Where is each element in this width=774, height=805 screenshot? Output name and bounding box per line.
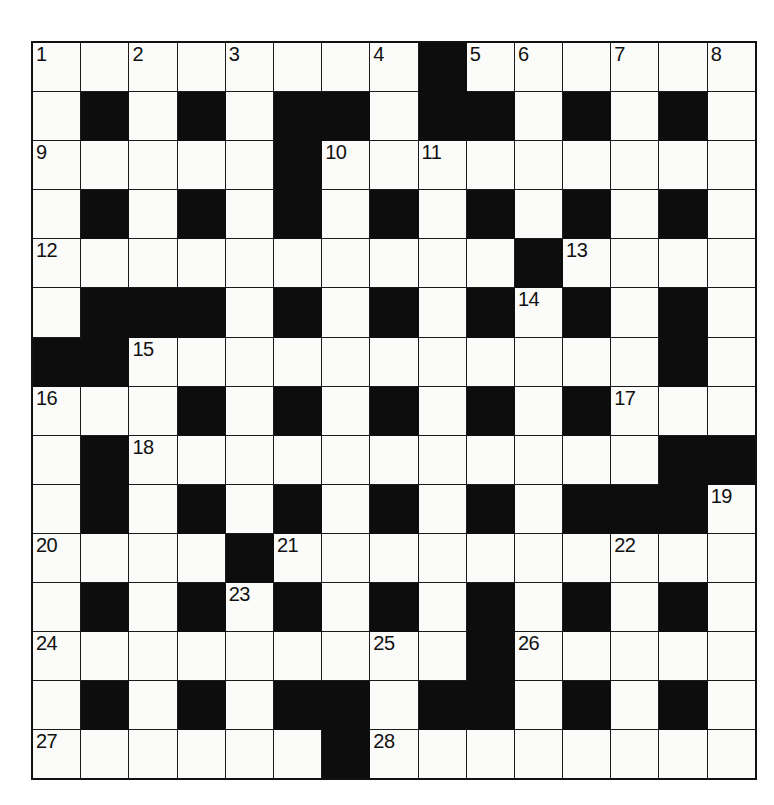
crossword-cell[interactable] xyxy=(514,92,562,141)
crossword-cell[interactable] xyxy=(177,435,225,484)
crossword-cell[interactable] xyxy=(514,190,562,239)
crossword-cell[interactable] xyxy=(707,141,756,190)
crossword-cell[interactable] xyxy=(418,484,466,533)
crossword-cell[interactable] xyxy=(370,239,418,288)
crossword-cell[interactable] xyxy=(322,239,370,288)
crossword-cell[interactable] xyxy=(273,239,321,288)
crossword-cell[interactable]: 28 xyxy=(370,730,418,780)
crossword-cell[interactable] xyxy=(370,141,418,190)
crossword-cell[interactable] xyxy=(659,42,707,92)
crossword-cell[interactable] xyxy=(32,435,81,484)
crossword-cell[interactable] xyxy=(514,533,562,582)
crossword-cell[interactable] xyxy=(370,337,418,386)
crossword-cell[interactable]: 13 xyxy=(563,239,611,288)
crossword-cell[interactable] xyxy=(322,190,370,239)
crossword-cell[interactable] xyxy=(177,42,225,92)
crossword-cell[interactable] xyxy=(659,141,707,190)
crossword-cell[interactable] xyxy=(32,190,81,239)
crossword-cell[interactable] xyxy=(659,239,707,288)
crossword-cell[interactable] xyxy=(418,337,466,386)
crossword-cell[interactable] xyxy=(322,386,370,435)
crossword-cell[interactable]: 27 xyxy=(32,730,81,780)
crossword-cell[interactable] xyxy=(418,632,466,681)
crossword-cell[interactable] xyxy=(225,190,273,239)
crossword-cell[interactable] xyxy=(514,435,562,484)
crossword-cell[interactable]: 9 xyxy=(32,141,81,190)
crossword-cell[interactable] xyxy=(177,533,225,582)
crossword-cell[interactable] xyxy=(466,337,514,386)
crossword-cell[interactable] xyxy=(611,632,659,681)
crossword-cell[interactable] xyxy=(81,533,129,582)
crossword-cell[interactable] xyxy=(129,141,177,190)
crossword-cell[interactable]: 10 xyxy=(322,141,370,190)
crossword-cell[interactable]: 26 xyxy=(514,632,562,681)
crossword-cell[interactable] xyxy=(659,533,707,582)
crossword-cell[interactable] xyxy=(81,632,129,681)
crossword-cell[interactable] xyxy=(611,435,659,484)
crossword-cell[interactable] xyxy=(707,583,756,632)
crossword-cell[interactable] xyxy=(611,288,659,337)
crossword-cell[interactable] xyxy=(707,337,756,386)
crossword-cell[interactable]: 8 xyxy=(707,42,756,92)
crossword-cell[interactable] xyxy=(418,533,466,582)
crossword-cell[interactable]: 24 xyxy=(32,632,81,681)
crossword-cell[interactable] xyxy=(707,533,756,582)
crossword-cell[interactable] xyxy=(225,141,273,190)
crossword-cell[interactable]: 16 xyxy=(32,386,81,435)
crossword-cell[interactable] xyxy=(611,141,659,190)
crossword-cell[interactable] xyxy=(32,583,81,632)
crossword-cell[interactable] xyxy=(418,190,466,239)
crossword-cell[interactable] xyxy=(81,386,129,435)
crossword-cell[interactable] xyxy=(225,92,273,141)
crossword-cell[interactable]: 3 xyxy=(225,42,273,92)
crossword-cell[interactable] xyxy=(418,239,466,288)
crossword-cell[interactable] xyxy=(514,730,562,780)
crossword-cell[interactable] xyxy=(563,337,611,386)
crossword-cell[interactable] xyxy=(273,730,321,780)
crossword-cell[interactable] xyxy=(418,435,466,484)
crossword-cell[interactable] xyxy=(466,533,514,582)
crossword-cell[interactable] xyxy=(32,484,81,533)
crossword-cell[interactable] xyxy=(659,632,707,681)
crossword-cell[interactable] xyxy=(177,337,225,386)
crossword-cell[interactable] xyxy=(32,288,81,337)
crossword-cell[interactable] xyxy=(129,239,177,288)
crossword-cell[interactable] xyxy=(225,288,273,337)
crossword-cell[interactable] xyxy=(322,337,370,386)
crossword-cell[interactable] xyxy=(418,730,466,780)
crossword-cell[interactable] xyxy=(322,42,370,92)
crossword-cell[interactable] xyxy=(611,583,659,632)
crossword-cell[interactable] xyxy=(707,190,756,239)
crossword-cell[interactable] xyxy=(225,632,273,681)
crossword-cell[interactable] xyxy=(611,239,659,288)
crossword-cell[interactable] xyxy=(129,632,177,681)
crossword-cell[interactable] xyxy=(129,484,177,533)
crossword-cell[interactable] xyxy=(418,583,466,632)
crossword-cell[interactable]: 25 xyxy=(370,632,418,681)
crossword-cell[interactable] xyxy=(466,141,514,190)
crossword-cell[interactable] xyxy=(370,92,418,141)
crossword-cell[interactable] xyxy=(611,190,659,239)
crossword-cell[interactable] xyxy=(514,583,562,632)
crossword-cell[interactable] xyxy=(611,681,659,730)
crossword-cell[interactable] xyxy=(466,239,514,288)
crossword-cell[interactable] xyxy=(129,386,177,435)
crossword-cell[interactable] xyxy=(129,533,177,582)
crossword-cell[interactable] xyxy=(32,681,81,730)
crossword-cell[interactable] xyxy=(370,681,418,730)
crossword-cell[interactable] xyxy=(611,337,659,386)
crossword-cell[interactable] xyxy=(225,386,273,435)
crossword-cell[interactable] xyxy=(514,386,562,435)
crossword-cell[interactable] xyxy=(81,239,129,288)
crossword-cell[interactable] xyxy=(81,42,129,92)
crossword-cell[interactable] xyxy=(466,435,514,484)
crossword-cell[interactable] xyxy=(129,92,177,141)
crossword-cell[interactable] xyxy=(611,730,659,780)
crossword-cell[interactable]: 20 xyxy=(32,533,81,582)
crossword-cell[interactable]: 17 xyxy=(611,386,659,435)
crossword-cell[interactable] xyxy=(707,386,756,435)
crossword-cell[interactable]: 7 xyxy=(611,42,659,92)
crossword-cell[interactable] xyxy=(418,386,466,435)
crossword-cell[interactable]: 5 xyxy=(466,42,514,92)
crossword-cell[interactable] xyxy=(466,730,514,780)
